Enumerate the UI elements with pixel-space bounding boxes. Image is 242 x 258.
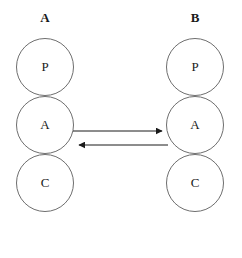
- node-b-c-label: C: [167, 176, 223, 190]
- node-b-p: P: [166, 38, 224, 96]
- node-b-a: A: [166, 96, 224, 154]
- diagram-canvas: A B P A C P A C: [0, 0, 242, 258]
- node-a-a-label: A: [17, 118, 73, 132]
- node-a-p-label: P: [17, 60, 73, 74]
- node-a-a: A: [16, 96, 74, 154]
- column-title-a: A: [25, 11, 65, 25]
- node-b-a-label: A: [167, 118, 223, 132]
- node-b-c: C: [166, 154, 224, 212]
- node-b-p-label: P: [167, 60, 223, 74]
- node-a-p: P: [16, 38, 74, 96]
- node-a-c-label: C: [17, 176, 73, 190]
- node-a-c: C: [16, 154, 74, 212]
- column-title-b: B: [175, 11, 215, 25]
